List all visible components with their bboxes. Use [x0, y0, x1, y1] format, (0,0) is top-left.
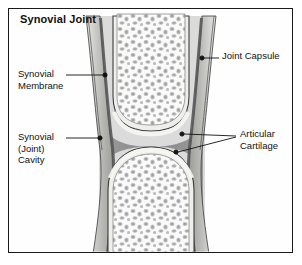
label-articular-cartilage-line1: Articular: [240, 128, 278, 140]
label-synovial-cavity-line2: (Joint): [18, 143, 54, 155]
figure-title: Synovial Joint: [20, 13, 96, 25]
lower-bone-marrow: [113, 154, 189, 256]
label-joint-capsule-text: Joint Capsule: [222, 50, 280, 61]
label-synovial-membrane-line1: Synovial: [18, 68, 63, 80]
label-articular-cartilage-line2: Cartilage: [240, 140, 278, 152]
label-synovial-membrane-line2: Membrane: [18, 80, 63, 92]
label-synovial-cavity: Synovial (Joint) Cavity: [18, 131, 54, 166]
leader-dot-joint-capsule: [200, 56, 204, 60]
leader-dot-synovial-cavity: [98, 136, 102, 140]
upper-bone-marrow: [117, 14, 185, 125]
label-synovial-cavity-line1: Synovial: [18, 131, 54, 143]
label-joint-capsule: Joint Capsule: [222, 50, 280, 62]
leader-dot-articular-cartilage-upper: [180, 132, 184, 136]
leader-dot-synovial-membrane: [103, 73, 107, 77]
label-synovial-cavity-line3: Cavity: [18, 154, 54, 166]
synovial-joint-figure: Synovial Joint Joint Capsule Synovial Me…: [0, 0, 302, 265]
label-articular-cartilage: Articular Cartilage: [240, 128, 278, 151]
label-synovial-membrane: Synovial Membrane: [18, 68, 63, 91]
leader-dot-articular-cartilage-lower: [174, 150, 178, 154]
